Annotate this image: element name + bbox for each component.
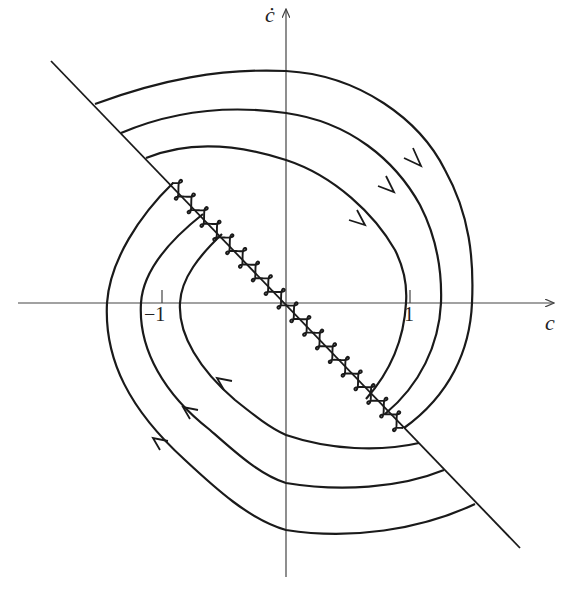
trajectory-outer-lower (107, 183, 475, 534)
phase-portrait (0, 0, 571, 597)
arrow-icon (153, 438, 168, 450)
tick-label-plus-1: 1 (404, 303, 414, 326)
chattering-segment (172, 180, 403, 431)
y-axis-label: ċ (265, 2, 275, 28)
trajectory-middle-upper (121, 109, 441, 414)
trajectory-outer-upper (95, 71, 472, 428)
x-axis-label: c (545, 310, 555, 336)
arrow-icon (349, 210, 365, 225)
arrow-icon (378, 176, 394, 192)
tick-label-minus-1: −1 (144, 303, 165, 326)
trajectory-inner-upper (146, 146, 406, 399)
arrow-icon (404, 148, 421, 166)
